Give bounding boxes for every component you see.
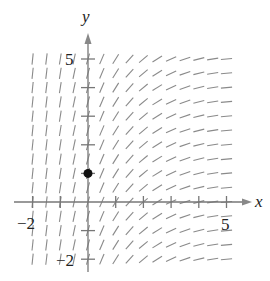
slope-segment [73, 82, 75, 93]
slope-segment [139, 84, 148, 91]
slope-segment [113, 226, 119, 235]
slope-segment [139, 227, 148, 234]
slope-segment [207, 58, 218, 60]
slope-segment [59, 125, 61, 136]
slope-segment [32, 239, 33, 250]
slope-segment [100, 82, 104, 92]
slope-segment [221, 259, 232, 260]
slope-segment [59, 53, 61, 64]
slope-segment [153, 213, 162, 219]
y-axis-label: y [80, 7, 90, 26]
slope-segment [113, 212, 119, 221]
slope-segment [153, 170, 162, 176]
slope-segment [166, 257, 176, 262]
slope-segment [32, 182, 33, 193]
slope-segment [153, 99, 162, 105]
slope-segment [73, 154, 75, 165]
slope-segment [193, 229, 204, 232]
slope-segment [180, 157, 191, 161]
x-axis-arrow-icon [242, 199, 252, 206]
slope-segment [100, 211, 104, 221]
axes [14, 33, 252, 272]
slope-segment [46, 68, 47, 79]
slope-segment [73, 225, 75, 236]
slope-segment [207, 72, 218, 74]
slope-segment [126, 112, 133, 120]
slope-segment [32, 82, 33, 93]
slope-segment [180, 186, 191, 190]
slope-segment [113, 169, 119, 178]
slope-segment [46, 125, 47, 136]
slope-segment [207, 144, 218, 146]
slope-segment [166, 171, 176, 176]
slope-segment [139, 184, 148, 191]
slope-segment [73, 68, 75, 79]
slope-segment [193, 58, 204, 61]
slope-segment [113, 97, 119, 106]
slope-segment [193, 258, 204, 261]
slope-segment [59, 96, 61, 107]
slope-segment [166, 157, 176, 162]
slope-segment [126, 98, 133, 106]
slope-segment [207, 215, 218, 217]
slope-segment [73, 111, 75, 122]
slope-segment [126, 55, 133, 63]
slope-segment [221, 73, 232, 74]
slope-segment [100, 97, 104, 107]
y-axis-arrow-icon [85, 33, 92, 44]
slope-segment [193, 143, 204, 146]
slope-segment [193, 172, 204, 175]
slope-segment [73, 139, 75, 150]
slope-segment [207, 230, 218, 232]
slope-segment [139, 156, 148, 163]
slope-segment [73, 125, 75, 136]
slope-segment [221, 116, 232, 117]
slope-segment [126, 255, 133, 263]
slope-segment [46, 225, 47, 236]
initial-point [84, 169, 93, 178]
slope-segment [153, 228, 162, 234]
slope-segment [113, 126, 119, 135]
slope-segment [46, 53, 47, 64]
slope-segment [100, 240, 104, 250]
slope-segment [113, 54, 119, 63]
slope-segment [100, 140, 104, 150]
slope-segment [73, 211, 75, 222]
slope-segment [59, 111, 61, 122]
slope-segment [166, 100, 176, 105]
slope-segment [126, 184, 133, 192]
slope-segment [46, 82, 47, 93]
slope-segment [46, 139, 47, 150]
slope-segment [180, 257, 191, 261]
slope-segment [207, 258, 218, 260]
slope-segment [166, 142, 176, 147]
slope-segment [221, 187, 232, 188]
slope-segment [139, 113, 148, 120]
slope-segment [193, 215, 204, 218]
slope-segment [180, 229, 191, 233]
slope-segment [166, 71, 176, 76]
y-tick-label-min: −2 [56, 251, 74, 270]
slope-segment [126, 141, 133, 149]
slope-segment [180, 100, 191, 104]
slope-segment [46, 154, 47, 165]
slope-segment [100, 225, 104, 235]
slope-segment [113, 83, 119, 92]
slope-segment [59, 139, 61, 150]
slope-segment [221, 159, 232, 160]
slope-segment [46, 168, 47, 179]
slope-segment [139, 256, 148, 263]
slope-segment [193, 101, 204, 104]
slope-segment [113, 69, 119, 78]
slope-segment [207, 130, 218, 132]
slope-segment [193, 86, 204, 89]
slope-segment [221, 87, 232, 88]
slope-segment [139, 70, 148, 77]
slope-segment [193, 158, 204, 161]
slope-segment [193, 115, 204, 118]
slope-segment [73, 96, 75, 107]
slope-segment [59, 154, 61, 165]
slope-segment [32, 139, 33, 150]
slope-segment [100, 183, 104, 193]
slope-segment [32, 53, 33, 64]
